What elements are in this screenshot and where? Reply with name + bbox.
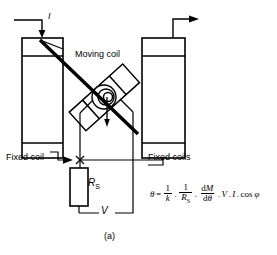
term2-numerator: 1 [181, 183, 190, 192]
series-resistor-label: RS [88, 178, 100, 190]
voltage-label: V [101, 206, 108, 216]
current-arrow-icon [39, 30, 46, 38]
equation-term-cos: cos [241, 189, 253, 199]
equation-term-I: I [232, 189, 235, 199]
term3-denominator: dθ [201, 193, 214, 203]
term1-numerator: 1 [164, 184, 173, 193]
current-label: I [48, 12, 51, 21]
fixed-coil-label: Fixed coil [6, 153, 44, 162]
term2-denominator: RS [179, 192, 192, 204]
equation-equals: = [156, 189, 161, 199]
term1-denominator: k [164, 193, 172, 203]
wattmeter-schematic-svg [0, 0, 277, 255]
fixed-coils-label: Fixed coils [148, 153, 191, 162]
equation-term-phi: φ [255, 189, 260, 199]
current-input-lead [14, 20, 45, 38]
series-resistor-subscript: S [95, 183, 100, 190]
current-out-arrow-icon [189, 15, 199, 22]
equation-dot-1: . [175, 189, 177, 199]
moving-coil-core [92, 85, 116, 109]
equation-term-dM-dtheta: dM dθ [199, 184, 215, 204]
term3-den-theta: θ [207, 193, 211, 203]
term2-den-subscript: S [187, 198, 190, 204]
figure-caption: (a) [104, 232, 115, 241]
equation-dot-4: . [229, 189, 231, 199]
figure-container: Moving coil Fixed coil Fixed coils I RS … [0, 0, 277, 255]
series-resistor [70, 160, 88, 213]
equation-term-1-over-k: 1 k [164, 184, 173, 204]
equation-term-V: V [222, 189, 228, 199]
moving-coil-label: Moving coil [75, 50, 120, 59]
term3-numerator: dM [199, 184, 215, 193]
equation-dot-5: . [237, 189, 239, 199]
right-fixed-coil [142, 38, 185, 158]
deflection-equation: θ = 1 k . 1 RS . dM dθ . V . I . cos φ [150, 183, 260, 205]
equation-lhs: θ [150, 189, 154, 199]
equation-dot-2: . [195, 189, 197, 199]
term3-num-M: M [206, 183, 214, 193]
equation-dot-3: . [218, 189, 220, 199]
current-output-lead [173, 15, 199, 38]
equation-term-1-over-rs: 1 RS [179, 183, 192, 205]
fixed-coil-arrow-icon [63, 156, 73, 164]
